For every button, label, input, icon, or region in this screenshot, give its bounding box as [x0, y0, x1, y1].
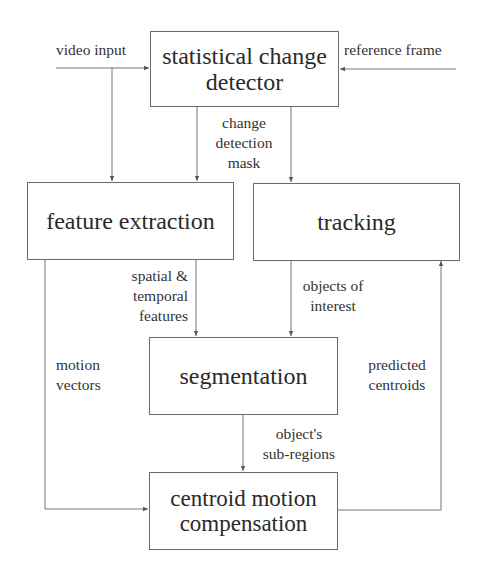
node-feature-extraction: feature extraction: [27, 182, 234, 260]
label-change-detection-mask: change detection mask: [203, 113, 285, 173]
label-object-sub-regions: object's sub-regions: [254, 424, 344, 464]
node-centroid-motion-compensation: centroid motion compensation: [149, 472, 338, 550]
label-objects-of-interest: objects of interest: [294, 276, 372, 316]
video-segmentation-block-diagram: statistical change detector feature extr…: [0, 0, 486, 574]
node-label: statistical change detector: [162, 43, 327, 95]
node-tracking: tracking: [253, 183, 460, 261]
node-segmentation: segmentation: [149, 337, 338, 415]
node-label: centroid motion compensation: [170, 486, 316, 536]
node-label: feature extraction: [46, 208, 215, 234]
label-motion-vectors: motion vectors: [56, 355, 101, 395]
label-video-input: video input: [56, 40, 126, 60]
node-label: segmentation: [180, 363, 308, 389]
label-reference-frame: reference frame: [344, 40, 442, 60]
node-label: tracking: [317, 209, 396, 235]
label-spatial-temporal-features: spatial & temporal features: [108, 266, 188, 326]
node-statistical-change-detector: statistical change detector: [150, 31, 339, 107]
label-predicted-centroids: predicted centroids: [360, 355, 434, 395]
